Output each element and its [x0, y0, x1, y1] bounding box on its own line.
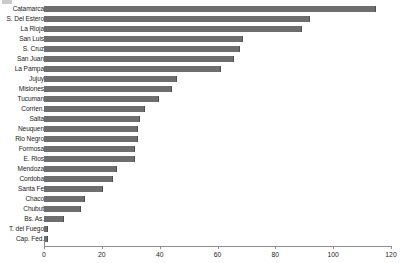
category-label: E. Rios [0, 154, 44, 163]
category-label: Santa Fe [0, 184, 44, 193]
x-axis-tick-label: 100 [327, 250, 338, 259]
bar [44, 106, 145, 113]
category-label: San Juan [0, 54, 44, 63]
category-label: Jujuy [0, 74, 44, 83]
bar-row: Cordoba [0, 174, 404, 184]
bar [44, 76, 177, 83]
bar [44, 206, 81, 213]
x-axis-tick-label: 40 [156, 250, 164, 259]
bar [44, 16, 310, 23]
bar-row: Neuquen [0, 124, 404, 134]
category-label: Catamarca [0, 4, 44, 13]
bar-row: San Juan [0, 54, 404, 64]
x-axis-tick-label: 120 [385, 250, 396, 259]
bar [44, 146, 135, 153]
x-axis-tick [218, 246, 219, 249]
bar-row: San Luis [0, 34, 404, 44]
category-label: Misiones [0, 84, 44, 93]
bar-row: Tucuman [0, 94, 404, 104]
bar-row: Chubut [0, 204, 404, 214]
bar-row: La Rioja [0, 24, 404, 34]
bar [44, 86, 172, 93]
x-axis-tick [333, 246, 334, 249]
bar [44, 186, 103, 193]
bar [44, 6, 376, 13]
category-label: Rio Negro [0, 134, 44, 143]
bar-row: S. Cruz [0, 44, 404, 54]
bar [44, 136, 138, 143]
x-axis-tick-label: 0 [42, 250, 46, 259]
bar-row: Catamarca [0, 4, 404, 14]
bar [44, 196, 85, 203]
bar-chart: CatamarcaS. Del EsteroLa RiojaSan LuisS.… [0, 0, 404, 263]
bar [44, 216, 64, 223]
bar [44, 226, 48, 233]
category-label: Tucuman [0, 94, 44, 103]
bar-row: T. del Fuego [0, 224, 404, 234]
category-label: San Luis [0, 34, 44, 43]
category-label: Chubut [0, 204, 44, 213]
bar-row: Formosa [0, 144, 404, 154]
bar [44, 156, 135, 163]
category-label: Cap. Fed. [0, 234, 44, 243]
category-label: La Pampa [0, 64, 44, 73]
bar-row: E. Rios [0, 154, 404, 164]
x-axis-tick [44, 246, 45, 249]
category-label: Neuquen [0, 124, 44, 133]
bar [44, 176, 113, 183]
x-axis-tick-label: 80 [272, 250, 280, 259]
bar [44, 166, 117, 173]
bar [44, 66, 221, 73]
bar [44, 96, 159, 103]
bar-row: Corrien. [0, 104, 404, 114]
category-label: S. Cruz [0, 44, 44, 53]
bar-row: Chaco [0, 194, 404, 204]
category-label: S. Del Estero [0, 14, 44, 23]
bar [44, 116, 140, 123]
x-axis-tick [102, 246, 103, 249]
x-axis-tick [275, 246, 276, 249]
category-label: Bs. As. [0, 214, 44, 223]
x-axis-tick [160, 246, 161, 249]
bar-row: Bs. As. [0, 214, 404, 224]
bar-row: Misiones [0, 84, 404, 94]
bar-row: Rio Negro [0, 134, 404, 144]
bar [44, 56, 234, 63]
bar-row: La Pampa [0, 64, 404, 74]
bar [44, 36, 243, 43]
bar-row: S. Del Estero [0, 14, 404, 24]
bar-row: Salta [0, 114, 404, 124]
category-label: Cordoba [0, 174, 44, 183]
category-label: T. del Fuego [0, 224, 44, 233]
x-axis-tick-label: 20 [98, 250, 106, 259]
category-label: Corrien. [0, 104, 44, 113]
category-label: Chaco [0, 194, 44, 203]
category-label: Formosa [0, 144, 44, 153]
x-axis-tick-label: 60 [214, 250, 222, 259]
bar [44, 126, 138, 133]
bar-row: Mendoza [0, 164, 404, 174]
category-label: Salta [0, 114, 44, 123]
bar-row: Jujuy [0, 74, 404, 84]
plot-area: CatamarcaS. Del EsteroLa RiojaSan LuisS.… [0, 0, 404, 263]
bar-row: Santa Fe [0, 184, 404, 194]
bar [44, 46, 240, 53]
category-label: Mendoza [0, 164, 44, 173]
bar-row: Cap. Fed. [0, 234, 404, 244]
bar [44, 26, 302, 33]
x-axis-tick [391, 246, 392, 249]
category-label: La Rioja [0, 24, 44, 33]
